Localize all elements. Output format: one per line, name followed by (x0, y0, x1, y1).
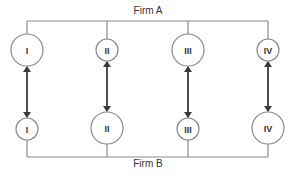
firm-a-node-label: I (26, 46, 29, 56)
column-ii: IIII (91, 21, 123, 157)
column-iii: IIIIII (172, 21, 204, 157)
column-iv: IVIV (252, 21, 284, 157)
firm-b-node-label: II (104, 124, 109, 134)
node-columns: IIIIIIIIIIIIIVIV (11, 21, 284, 157)
firm-a-node-label: II (104, 46, 109, 56)
firm-b-label: Firm B (133, 158, 163, 169)
firm-a-node-label: IV (264, 46, 273, 56)
firm-b-node-label: IV (264, 124, 273, 134)
firm-b-node-label: I (26, 125, 29, 135)
firm-diagram: IIIIIIIIIIIIIVIV Firm A Firm B (0, 0, 297, 179)
column-i: II (11, 21, 43, 157)
firm-a-label: Firm A (134, 5, 163, 16)
firm-a-node-label: III (184, 46, 192, 56)
firm-b-node-label: III (184, 125, 192, 135)
